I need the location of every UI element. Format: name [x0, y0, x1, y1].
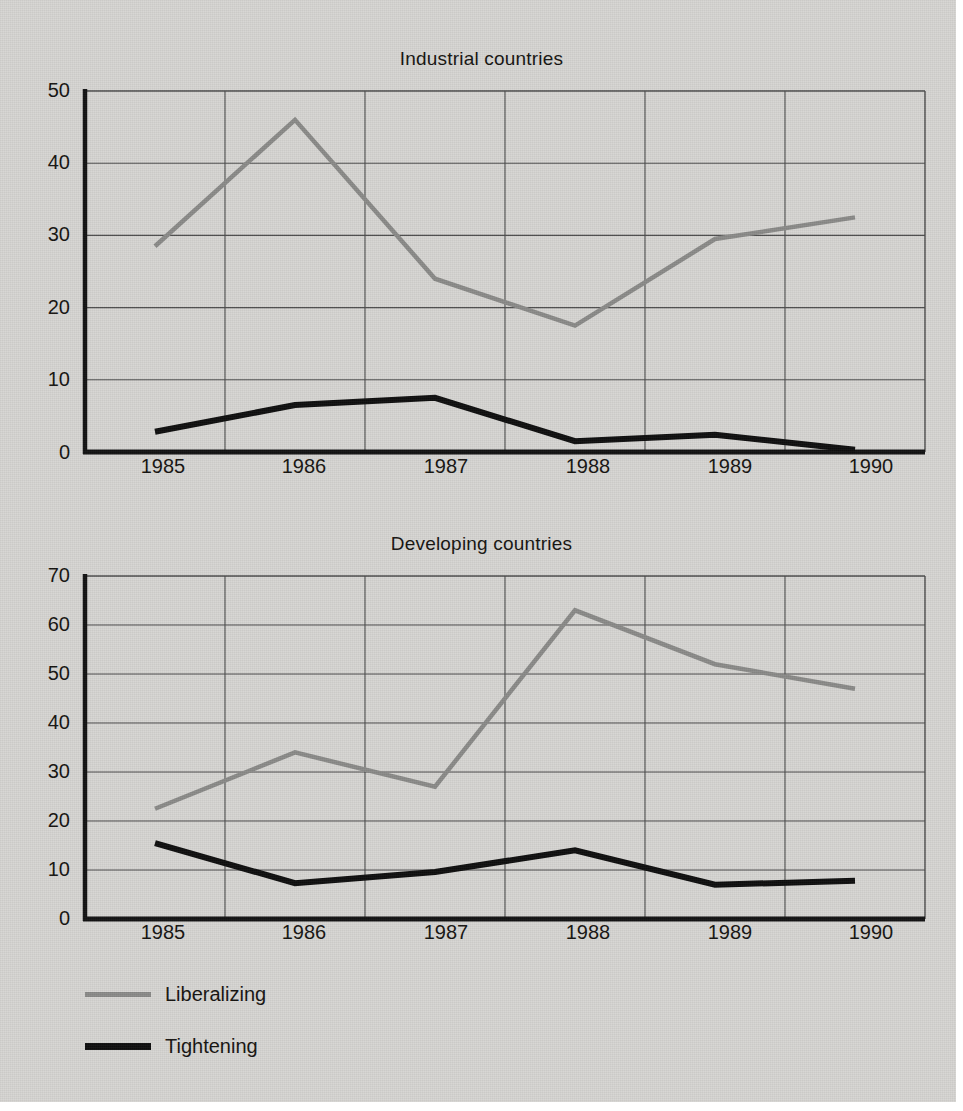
x-tick-label: 1986 [254, 921, 354, 944]
figure-legend: Liberalizing Tightening [0, 975, 963, 1070]
figure-page: Industrial countries 50 40 30 20 10 0 19… [0, 0, 963, 1111]
plot-area-developing [0, 525, 963, 975]
x-tick-label: 1989 [680, 921, 780, 944]
x-tick-label: 1990 [821, 455, 921, 478]
page-edge-bottom [0, 1102, 963, 1111]
chart-panel-developing: Developing countries 70 60 50 40 30 20 1… [0, 525, 963, 975]
chart-panel-industrial: Industrial countries 50 40 30 20 10 0 19… [0, 40, 963, 520]
legend-item-tightening: Tightening [85, 1035, 258, 1058]
x-tick-label: 1990 [821, 921, 921, 944]
x-tick-label: 1985 [113, 921, 213, 944]
legend-swatch-tightening [85, 1043, 151, 1050]
x-tick-label: 1987 [396, 921, 496, 944]
page-edge-right [956, 0, 963, 1111]
legend-label-liberalizing: Liberalizing [165, 983, 266, 1006]
x-tick-label: 1988 [538, 921, 638, 944]
x-tick-label: 1988 [538, 455, 638, 478]
x-tick-label: 1986 [254, 455, 354, 478]
x-tick-label: 1989 [680, 455, 780, 478]
legend-label-tightening: Tightening [165, 1035, 258, 1058]
x-tick-label: 1987 [396, 455, 496, 478]
x-tick-label: 1985 [113, 455, 213, 478]
plot-area-industrial [0, 40, 963, 520]
legend-item-liberalizing: Liberalizing [85, 983, 266, 1006]
legend-swatch-liberalizing [85, 992, 151, 997]
